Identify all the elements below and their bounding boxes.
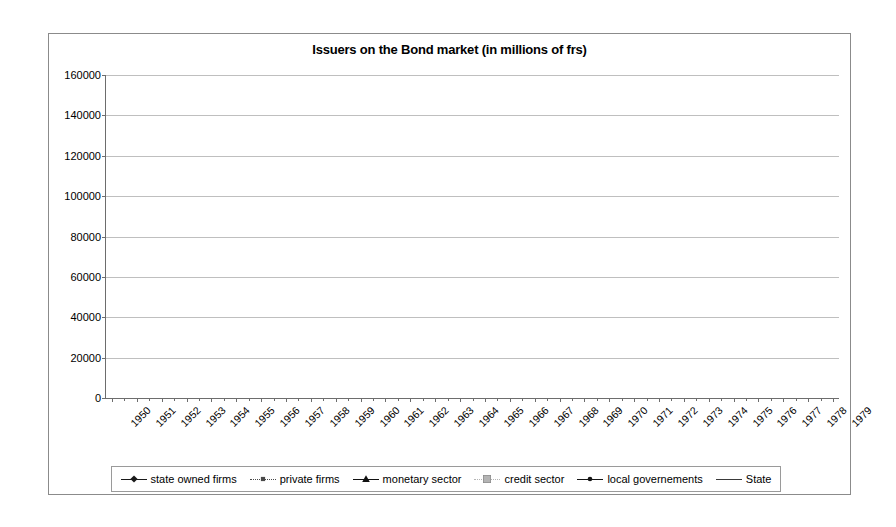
y-axis-tick-label: 160000 — [64, 69, 101, 81]
x-axis-minor-tick — [572, 398, 573, 401]
y-axis-tick — [102, 75, 106, 76]
x-axis-tick-label: 1965 — [501, 404, 526, 429]
x-axis-tick-label: 1976 — [774, 404, 799, 429]
legend-item-monetary-sector[interactable]: monetary sector — [353, 473, 462, 485]
x-axis-tick-label: 1955 — [252, 404, 277, 429]
x-axis-tick-label: 1971 — [650, 404, 675, 429]
x-axis-minor-tick — [249, 398, 250, 401]
x-axis-minor-tick — [497, 398, 498, 401]
x-axis-tick — [833, 398, 834, 402]
x-axis-tick — [236, 398, 237, 402]
x-axis-minor-tick — [373, 398, 374, 401]
x-axis-minor-tick — [224, 398, 225, 401]
x-axis-minor-tick — [771, 398, 772, 401]
legend-marker-diamond-icon — [121, 474, 147, 484]
x-axis-tick-label: 1975 — [749, 404, 774, 429]
x-axis-minor-tick — [671, 398, 672, 401]
x-axis-tick-label: 1958 — [327, 404, 352, 429]
x-axis-minor-tick — [124, 398, 125, 401]
x-axis-tick-label: 1970 — [625, 404, 650, 429]
legend-marker-triangle-icon — [353, 474, 379, 484]
y-axis-tick — [102, 277, 106, 278]
x-axis-tick-label: 1969 — [600, 404, 625, 429]
legend-item-private-firms[interactable]: private firms — [250, 473, 340, 485]
x-axis-tick-label: 1977 — [799, 404, 824, 429]
legend-marker-none-icon — [716, 474, 742, 484]
y-axis-tick-label: 0 — [95, 392, 101, 404]
legend-item-state[interactable]: State — [716, 473, 772, 485]
gridline — [106, 237, 839, 238]
gridline — [106, 277, 839, 278]
x-axis-tick-label: 1978 — [824, 404, 849, 429]
x-axis-tick — [560, 398, 561, 402]
x-axis-minor-tick — [298, 398, 299, 401]
x-axis-minor-tick — [274, 398, 275, 401]
x-axis-tick — [485, 398, 486, 402]
legend-label: state owned firms — [151, 473, 237, 485]
x-axis-tick-label: 1964 — [476, 404, 501, 429]
legend-item-credit-sector[interactable]: credit sector — [474, 473, 564, 485]
x-axis-tick — [137, 398, 138, 402]
x-axis-minor-tick — [721, 398, 722, 401]
x-axis-tick — [510, 398, 511, 402]
x-axis-minor-tick — [622, 398, 623, 401]
x-axis-tick — [584, 398, 585, 402]
y-axis-tick-label: 140000 — [64, 109, 101, 121]
y-axis-tick-label: 100000 — [64, 190, 101, 202]
x-axis-tick-label: 1959 — [352, 404, 377, 429]
legend-marker-dot-icon — [577, 474, 603, 484]
x-axis-tick — [758, 398, 759, 402]
x-axis-tick — [261, 398, 262, 402]
x-axis-tick — [460, 398, 461, 402]
x-axis-tick-label: 1956 — [277, 404, 302, 429]
x-axis-tick-label: 1967 — [550, 404, 575, 429]
x-axis-minor-tick — [746, 398, 747, 401]
data-point-marker — [484, 475, 491, 482]
x-axis-tick — [385, 398, 386, 402]
x-axis-tick — [112, 398, 113, 402]
legend-item-state-owned-firms[interactable]: state owned firms — [121, 473, 237, 485]
chart-legend: state owned firmsprivate firmsmonetary s… — [111, 466, 781, 492]
x-axis-tick — [361, 398, 362, 402]
x-axis-minor-tick — [821, 398, 822, 401]
legend-item-local-governements[interactable]: local governements — [577, 473, 702, 485]
y-axis-tick — [102, 237, 106, 238]
chart-container: Issuers on the Bond market (in millions … — [48, 33, 851, 495]
legend-marker-small-square-icon — [250, 474, 276, 484]
y-axis-tick-label: 120000 — [64, 150, 101, 162]
legend-label: private firms — [280, 473, 340, 485]
x-axis-tick — [535, 398, 536, 402]
plot-area — [106, 75, 839, 398]
y-axis-tick — [102, 196, 106, 197]
x-axis-tick-label: 1957 — [302, 404, 327, 429]
gridline — [106, 317, 839, 318]
gridline — [106, 358, 839, 359]
x-axis-tick-label: 1973 — [700, 404, 725, 429]
data-point-marker — [362, 475, 370, 482]
x-axis-tick — [187, 398, 188, 402]
data-point-marker — [588, 477, 593, 482]
y-axis-tick — [102, 358, 106, 359]
x-axis-tick — [435, 398, 436, 402]
x-axis-tick-label: 1972 — [675, 404, 700, 429]
x-axis-minor-tick — [149, 398, 150, 401]
x-axis-minor-tick — [547, 398, 548, 401]
x-axis-tick-label: 1963 — [451, 404, 476, 429]
x-axis-tick — [634, 398, 635, 402]
legend-label: monetary sector — [383, 473, 462, 485]
x-axis-tick-label: 1954 — [227, 404, 252, 429]
x-axis-tick-label: 1961 — [401, 404, 426, 429]
gridline — [106, 115, 839, 116]
x-axis-minor-tick — [348, 398, 349, 401]
x-axis-minor-tick — [448, 398, 449, 401]
x-axis-tick-label: 1952 — [178, 404, 203, 429]
x-axis-tick-label: 1951 — [153, 404, 178, 429]
x-axis-tick-label: 1953 — [202, 404, 227, 429]
data-point-marker — [261, 477, 265, 481]
y-axis-tick-label: 20000 — [70, 352, 101, 364]
y-axis-tick — [102, 156, 106, 157]
x-axis-tick — [659, 398, 660, 402]
y-axis-tick-label: 80000 — [70, 231, 101, 243]
x-axis-minor-tick — [473, 398, 474, 401]
legend-label: local governements — [607, 473, 702, 485]
